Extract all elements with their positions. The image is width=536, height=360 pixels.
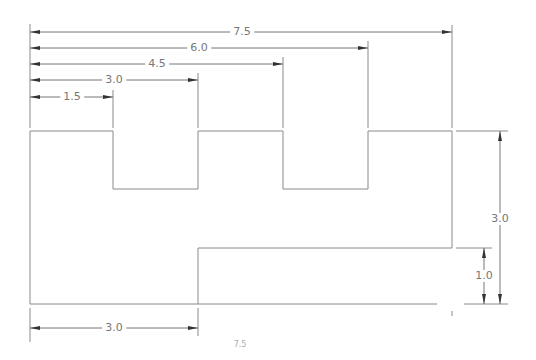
technical-drawing (0, 0, 536, 360)
dim-label-3-0-vertical: 3.0 (488, 213, 512, 225)
dim-label-7-5-bottom-cut: 7.5 (231, 339, 250, 351)
dimension-lines-top (30, 32, 452, 97)
dim-label-1-5: 1.5 (60, 91, 84, 103)
dim-label-6-0: 6.0 (187, 42, 211, 54)
part-outline (30, 131, 452, 304)
dim-label-3-0-top: 3.0 (102, 74, 126, 86)
dimension-bottom (30, 308, 452, 342)
extension-lines-top (30, 24, 452, 128)
dim-label-4-5: 4.5 (145, 58, 169, 70)
dim-label-1-0-vertical: 1.0 (472, 270, 496, 282)
dim-label-7-5-top: 7.5 (230, 26, 254, 38)
dim-label-3-0-bottom: 3.0 (102, 322, 126, 334)
